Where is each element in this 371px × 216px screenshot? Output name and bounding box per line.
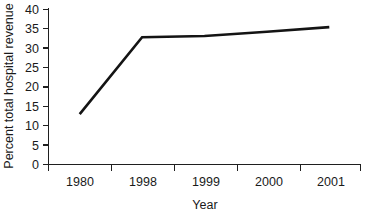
x-tick-label-2001: 2001 [317, 175, 345, 189]
x-axis-title: Year [192, 198, 217, 212]
x-tick-label-2000: 2000 [255, 175, 283, 189]
line-chart: 0 5 10 15 20 25 30 35 40 1980 1998 1999 … [0, 0, 371, 216]
y-tick-label-5: 5 [32, 139, 39, 153]
y-tick-label-20: 20 [25, 80, 39, 94]
chart-background [0, 0, 371, 216]
y-tick-label-40: 40 [25, 3, 39, 17]
y-tick-label-25: 25 [25, 61, 39, 75]
y-tick-label-35: 35 [25, 22, 39, 36]
y-axis-title: Percent total hospital revenue [2, 3, 16, 168]
y-tick-label-10: 10 [25, 119, 39, 133]
y-tick-label-30: 30 [25, 42, 39, 56]
chart-canvas: 0 5 10 15 20 25 30 35 40 1980 1998 1999 … [0, 0, 371, 216]
x-tick-label-1998: 1998 [129, 175, 157, 189]
y-tick-label-0: 0 [32, 158, 39, 172]
y-tick-label-15: 15 [25, 100, 39, 114]
x-tick-label-1999: 1999 [192, 175, 220, 189]
x-tick-label-1980: 1980 [66, 175, 94, 189]
